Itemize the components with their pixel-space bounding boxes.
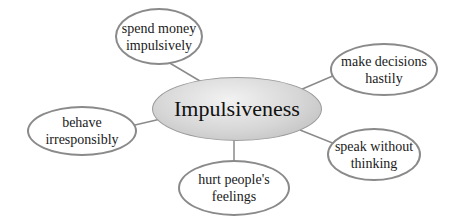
node-label-line1: speak without bbox=[335, 138, 413, 155]
connector-decisions bbox=[300, 75, 335, 90]
node-speak-without: speak without thinking bbox=[327, 128, 421, 181]
node-label-line2: thinking bbox=[335, 155, 413, 172]
node-label-line1: spend money bbox=[122, 20, 196, 37]
node-label-line2: feelings bbox=[198, 188, 269, 205]
node-behave: behave irresponsibly bbox=[27, 106, 137, 156]
node-label-line1: hurt people's bbox=[198, 171, 269, 188]
node-label-line2: hastily bbox=[341, 70, 427, 87]
node-label-line1: behave bbox=[45, 114, 118, 131]
central-topic-label: Impulsiveness bbox=[174, 96, 300, 122]
node-hurt-feelings: hurt people's feelings bbox=[178, 160, 290, 216]
node-label-line2: impulsively bbox=[122, 37, 196, 54]
central-topic: Impulsiveness bbox=[152, 77, 322, 141]
node-label-line1: make decisions bbox=[341, 53, 427, 70]
node-label-line2: irresponsibly bbox=[45, 131, 118, 148]
node-make-decisions: make decisions hastily bbox=[330, 43, 438, 96]
node-spend-money: spend money impulsively bbox=[115, 8, 203, 65]
